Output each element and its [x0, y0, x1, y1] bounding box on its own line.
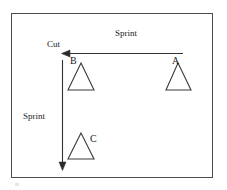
sprint-vertical-label: Sprint	[23, 112, 45, 121]
cone-c-label: C	[90, 134, 97, 144]
scan-artifact	[15, 183, 19, 186]
cone-b-label: B	[70, 56, 77, 66]
cut-label: Cut	[47, 40, 60, 49]
sprint-top-label: Sprint	[115, 29, 137, 38]
diagram-canvas: Sprint Cut Sprint B A C	[0, 0, 227, 190]
diagram-graphics	[0, 0, 227, 190]
diagram-frame	[12, 14, 213, 178]
cone-a-label: A	[172, 56, 179, 66]
